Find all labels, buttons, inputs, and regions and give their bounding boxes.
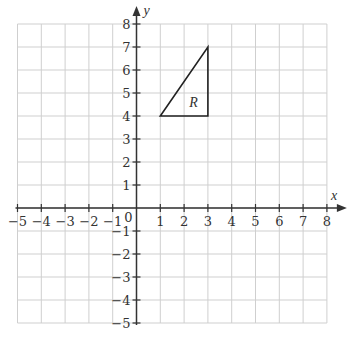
- x-tick-label: 7: [299, 214, 307, 229]
- x-tick-label: −5: [8, 214, 27, 229]
- x-tick-label: −4: [32, 214, 51, 229]
- y-tick-label: −2: [111, 247, 130, 262]
- x-tick-label: 6: [275, 214, 283, 229]
- x-tick-label: 1: [156, 214, 164, 229]
- x-tick-label: −3: [56, 214, 75, 229]
- x-axis-label: x: [330, 188, 338, 203]
- y-tick-label: 3: [122, 132, 130, 147]
- shape-label: R: [188, 95, 198, 110]
- y-tick-label: −5: [111, 316, 130, 331]
- y-tick-label: 2: [122, 155, 130, 170]
- grid-lines: [18, 24, 327, 323]
- y-tick-label: 5: [122, 86, 130, 101]
- x-tick-label: −2: [79, 214, 98, 229]
- coordinate-grid: −5−4−3−2−112345678−5−4−3−2−112345678 x y…: [0, 0, 348, 340]
- x-axis-arrow-icon: [337, 204, 347, 212]
- x-tick-label: 8: [323, 214, 331, 229]
- y-axis-label: y: [142, 3, 151, 18]
- x-tick-label: 2: [180, 214, 188, 229]
- y-tick-label: −1: [111, 224, 130, 239]
- origin-label: 0: [124, 210, 132, 225]
- x-tick-label: 4: [228, 214, 236, 229]
- x-tick-label: 3: [204, 214, 212, 229]
- y-tick-label: 7: [122, 40, 130, 55]
- y-tick-label: −4: [111, 293, 130, 308]
- y-tick-label: 8: [122, 17, 130, 32]
- y-tick-label: −3: [111, 270, 130, 285]
- y-tick-label: 1: [122, 178, 130, 193]
- y-tick-label: 4: [122, 109, 130, 124]
- y-axis-arrow-icon: [133, 6, 141, 16]
- y-tick-label: 6: [122, 63, 130, 78]
- tick-labels: −5−4−3−2−112345678−5−4−3−2−112345678: [8, 17, 331, 331]
- x-tick-label: 5: [251, 214, 259, 229]
